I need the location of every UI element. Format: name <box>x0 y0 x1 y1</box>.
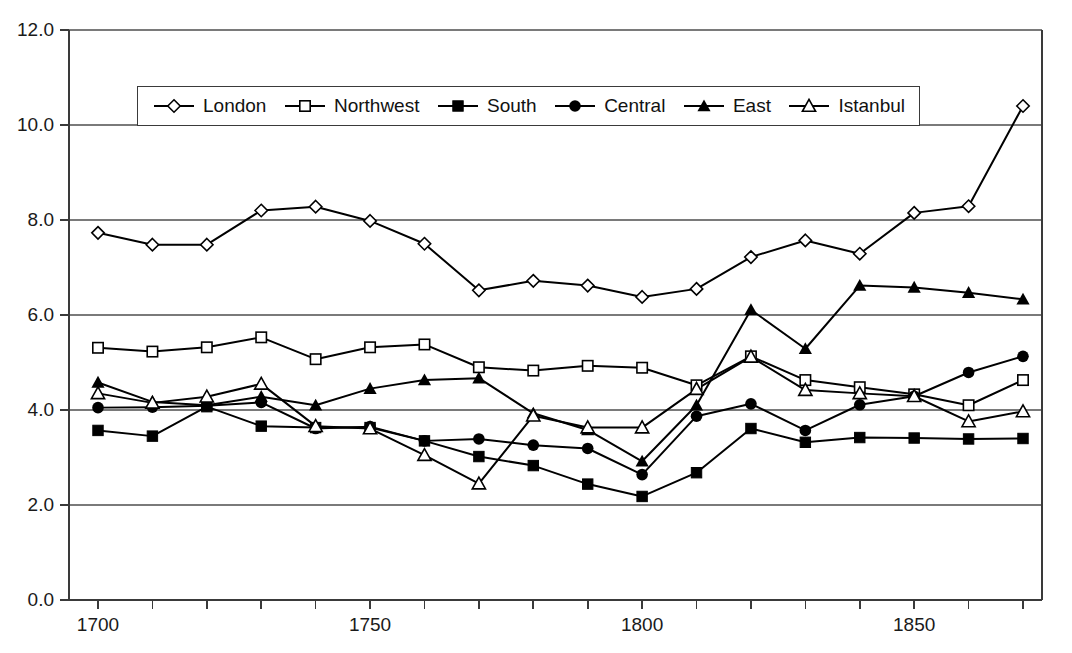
legend-item-northwest[interactable]: Northwest <box>283 95 420 117</box>
data-point-marker <box>691 410 703 422</box>
data-point-marker <box>636 469 648 481</box>
data-point-marker <box>255 390 268 402</box>
y-tick-label: 10.0 <box>0 114 54 136</box>
data-point-marker <box>691 468 701 478</box>
series-lines <box>98 106 1023 496</box>
data-point-marker <box>419 339 429 349</box>
data-point-marker <box>147 431 157 441</box>
series-markers-istanbul <box>91 350 1029 489</box>
data-point-marker <box>582 443 594 455</box>
data-point-marker <box>854 399 866 411</box>
data-point-marker <box>1017 100 1029 112</box>
data-point-marker <box>202 342 212 352</box>
y-tick-label: 8.0 <box>0 209 54 231</box>
data-point-marker <box>93 343 103 353</box>
data-point-marker <box>962 200 974 212</box>
data-point-marker <box>569 100 581 112</box>
data-point-marker <box>528 460 538 470</box>
data-point-marker <box>419 435 431 447</box>
data-point-marker <box>201 239 213 251</box>
legend-item-london[interactable]: London <box>152 95 266 117</box>
legend-item-label: Northwest <box>331 95 420 117</box>
data-point-marker <box>309 201 321 213</box>
data-point-marker <box>746 423 756 433</box>
legend-item-label: Central <box>601 95 665 117</box>
data-point-marker <box>744 303 757 315</box>
data-point-marker <box>690 399 703 411</box>
data-point-marker <box>474 362 484 372</box>
y-tick-label: 6.0 <box>0 304 54 326</box>
data-point-marker <box>418 449 431 461</box>
data-point-marker <box>583 479 593 489</box>
data-point-marker <box>473 433 485 445</box>
line-chart: 0.02.04.06.08.010.012.0 1700175018001850… <box>0 0 1072 653</box>
legend-item-istanbul[interactable]: Istanbul <box>787 95 905 117</box>
legend-item-east[interactable]: East <box>682 95 771 117</box>
data-point-marker <box>92 227 104 239</box>
data-point-marker <box>527 275 539 287</box>
x-tick-label: 1800 <box>602 614 682 636</box>
legend-item-south[interactable]: South <box>436 95 537 117</box>
series-line-london <box>98 106 1023 297</box>
x-axis-ticks <box>98 600 1023 609</box>
data-point-marker <box>310 354 320 364</box>
data-point-marker <box>799 234 811 246</box>
data-point-marker <box>1018 375 1028 385</box>
data-point-marker <box>1016 405 1029 417</box>
data-point-marker <box>745 398 757 410</box>
legend-marker-filled-circle-icon <box>553 97 597 115</box>
y-tick-label: 4.0 <box>0 399 54 421</box>
data-point-marker <box>909 433 919 443</box>
y-tick-label: 0.0 <box>0 589 54 611</box>
data-point-marker <box>364 215 376 227</box>
legend-item-central[interactable]: Central <box>553 95 665 117</box>
data-point-marker <box>855 432 865 442</box>
legend-marker-open-square-icon <box>283 97 327 115</box>
series-markers-northwest <box>93 332 1028 410</box>
series-markers-london <box>92 100 1029 303</box>
data-point-marker <box>255 204 267 216</box>
data-point-marker <box>300 101 310 111</box>
data-point-marker <box>168 100 180 112</box>
series-line-istanbul <box>98 357 1023 484</box>
x-tick-label: 1850 <box>874 614 954 636</box>
data-point-marker <box>963 434 973 444</box>
data-point-marker <box>800 425 812 437</box>
data-point-marker <box>256 421 266 431</box>
data-point-marker <box>453 101 463 111</box>
legend-marker-filled-triangle-icon <box>682 97 726 115</box>
data-point-marker <box>690 283 702 295</box>
data-point-marker <box>93 425 103 435</box>
data-point-marker <box>963 400 973 410</box>
series-markers <box>91 100 1029 502</box>
x-tick-label: 1700 <box>58 614 138 636</box>
data-point-marker <box>255 377 268 389</box>
data-point-marker <box>745 251 757 263</box>
data-point-marker <box>800 437 810 447</box>
data-point-marker <box>1018 433 1028 443</box>
data-point-marker <box>963 367 975 379</box>
legend-item-label: East <box>730 95 771 117</box>
legend-item-label: South <box>484 95 537 117</box>
data-point-marker <box>636 291 648 303</box>
series-line-south <box>98 407 1023 497</box>
data-point-marker <box>1017 351 1029 363</box>
legend-marker-open-triangle-icon <box>787 97 831 115</box>
series-line-central <box>98 356 1023 474</box>
x-tick-label: 1750 <box>330 614 410 636</box>
data-point-marker <box>637 491 647 501</box>
data-point-marker <box>474 451 484 461</box>
data-point-marker <box>92 402 104 414</box>
legend-marker-filled-square-icon <box>436 97 480 115</box>
data-point-marker <box>91 387 104 399</box>
legend-marker-open-diamond-icon <box>152 97 196 115</box>
data-point-marker <box>527 439 539 451</box>
y-tick-label: 2.0 <box>0 494 54 516</box>
legend-item-label: London <box>200 95 266 117</box>
y-tick-label: 12.0 <box>0 19 54 41</box>
data-point-marker <box>365 342 375 352</box>
series-line-east <box>98 286 1023 462</box>
data-point-marker <box>583 361 593 371</box>
data-point-marker <box>146 239 158 251</box>
legend: LondonNorthwestSouthCentralEastIstanbul <box>137 86 920 126</box>
